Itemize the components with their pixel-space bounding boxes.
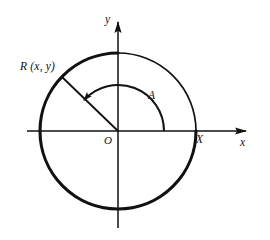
y-axis-label: y [105,14,110,26]
figure-canvas: R (x, y) A O X x y [0,0,270,240]
x-axis-label: x [240,137,245,149]
point-label-X: X [196,134,203,146]
geometry-drawing [0,0,270,240]
angle-label-A: A [148,90,155,102]
circle-outline-heavy [118,53,196,131]
origin-label-O: O [104,135,112,146]
point-label-R: R (x, y) [20,61,55,73]
